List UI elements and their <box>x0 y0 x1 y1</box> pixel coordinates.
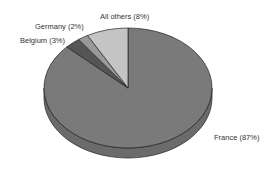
label-all-others: All others (8%) <box>100 12 149 21</box>
label-germany: Germany (2%) <box>35 22 84 31</box>
pie-top <box>44 28 212 148</box>
label-france: France (87%) <box>214 133 259 142</box>
label-belgium: Belgium (3%) <box>20 36 65 45</box>
